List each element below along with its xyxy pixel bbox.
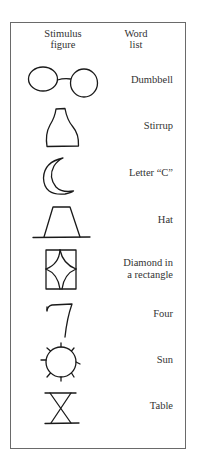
trapezoid-baseline: [33, 237, 90, 238]
hourglass-bottom: [45, 423, 79, 424]
trapezoid-outline: [44, 207, 80, 237]
diamond-arc-tr: [60, 250, 76, 269]
word-dumbbell: Dumbbell: [131, 74, 173, 86]
word-diamond-in-a-rectangle: Diamond in a rectangle: [123, 257, 173, 280]
word-diamond-line1: Diamond in: [123, 257, 173, 269]
sun-ray: [47, 373, 51, 377]
diamond-arc-tl: [46, 250, 60, 269]
diamond-rectangle-figure: [46, 250, 76, 289]
diamond-arc-bl: [46, 269, 60, 289]
word-hat: Hat: [158, 214, 173, 226]
word-diamond-line2: a rectangle: [123, 269, 173, 281]
crescent-outline: [44, 158, 74, 194]
outer-rectangle: [46, 250, 76, 289]
word-letter-c: Letter “C”: [129, 167, 173, 179]
diamond-arc-br: [62, 269, 76, 289]
hourglass-figure: [45, 393, 79, 424]
seven-figure: [47, 304, 72, 337]
word-four: Four: [153, 308, 173, 320]
bottle-figure: [46, 109, 78, 147]
sun-ray: [76, 362, 80, 364]
word-stirrup: Stirrup: [144, 120, 173, 132]
sun-figure: [41, 343, 80, 381]
dumbbell-right-circle: [71, 69, 98, 97]
sun-ray: [72, 373, 75, 377]
crescent-figure: [44, 158, 74, 194]
sun-ray: [72, 348, 75, 351]
trapezoid-figure: [33, 207, 90, 238]
dumbbell-left-circle: [29, 67, 58, 91]
dumbbell-bar: [58, 79, 71, 80]
sun-ray: [47, 348, 51, 351]
seven-stroke: [47, 304, 72, 337]
word-sun: Sun: [157, 354, 173, 366]
word-table: Table: [150, 400, 173, 412]
dumbbell-figure: [29, 67, 98, 97]
bottle-outline: [46, 109, 78, 147]
